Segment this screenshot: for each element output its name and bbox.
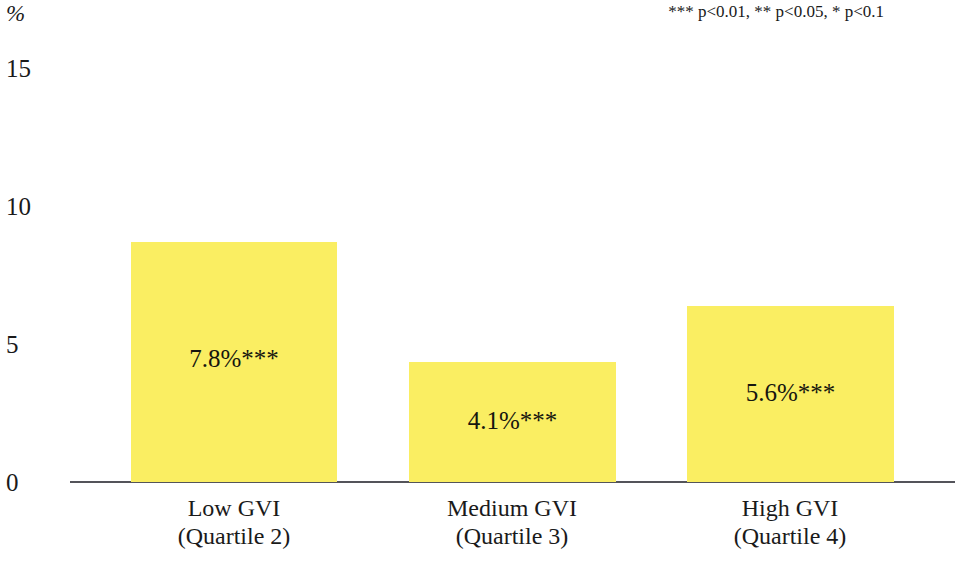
bar-value-low-gvi: 7.8%*** [131,346,337,371]
bar-low-gvi[interactable]: 7.8%*** [131,242,337,482]
x-category-line2-high-gvi: (Quartile 4) [670,523,910,551]
x-category-label-high-gvi: High GVI (Quartile 4) [670,495,910,551]
x-category-line2-low-gvi: (Quartile 2) [114,523,354,551]
bar-value-high-gvi: 5.6%*** [687,380,894,405]
bar-chart-figure: % *** p<0.01, ** p<0.05, * p<0.1 15 10 5… [0,0,962,561]
x-category-label-medium-gvi: Medium GVI (Quartile 3) [392,495,632,551]
bar-value-medium-gvi: 4.1%*** [409,408,616,433]
bar-medium-gvi[interactable]: 4.1%*** [409,362,616,482]
x-category-line2-medium-gvi: (Quartile 3) [392,523,632,551]
x-category-label-low-gvi: Low GVI (Quartile 2) [114,495,354,551]
x-category-line1-medium-gvi: Medium GVI [447,495,577,521]
bar-high-gvi[interactable]: 5.6%*** [687,306,894,482]
x-category-line1-high-gvi: High GVI [742,495,839,521]
x-category-line1-low-gvi: Low GVI [188,495,281,521]
plot-area: 7.8%*** 4.1%*** 5.6%*** Low GVI (Quartil… [0,0,962,561]
